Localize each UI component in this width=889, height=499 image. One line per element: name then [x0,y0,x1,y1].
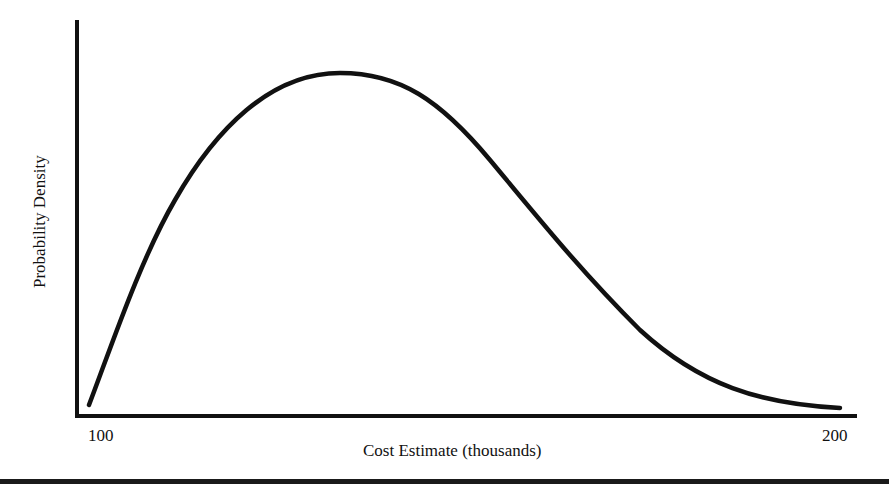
bottom-rule [0,479,889,484]
x-axis-title: Cost Estimate (thousands) [363,441,541,461]
density-chart [0,0,889,499]
x-tick-label-max: 200 [822,426,848,446]
y-axis-title: Probability Density [30,155,50,288]
density-curve [89,73,840,408]
x-tick-label-min: 100 [88,426,114,446]
